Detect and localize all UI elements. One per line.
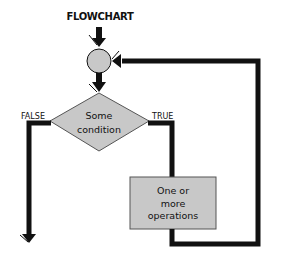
junction-circle xyxy=(87,49,111,73)
false-path xyxy=(20,123,51,243)
flowchart-canvas xyxy=(0,0,298,266)
operations-label: One or more operations xyxy=(131,185,215,223)
condition-label-line-2: condition xyxy=(68,123,130,137)
false-label: FALSE xyxy=(21,112,45,121)
true-label: TRUE xyxy=(152,112,173,121)
junction-to-condition-arrow xyxy=(89,73,106,92)
true-path xyxy=(148,123,172,178)
condition-label: Some condition xyxy=(68,109,130,137)
operations-label-line-3: operations xyxy=(131,210,215,223)
operations-label-line-2: more xyxy=(131,198,215,211)
entry-arrow xyxy=(89,27,106,47)
flowchart-title: FLOWCHART xyxy=(60,11,140,22)
operations-label-line-1: One or xyxy=(131,185,215,198)
condition-label-line-1: Some xyxy=(68,109,130,123)
